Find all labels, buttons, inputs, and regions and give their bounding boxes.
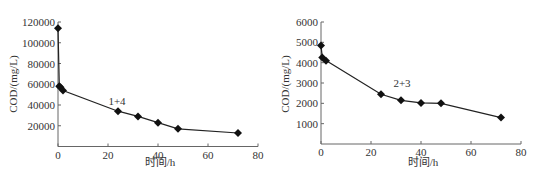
diamond-marker-icon — [234, 129, 242, 137]
chart-1-plus-4: 20000400006000080000100000120000 0204060… — [7, 16, 264, 168]
diamond-marker-icon — [54, 24, 62, 32]
x-axis-title-left: 时间/h — [145, 156, 176, 168]
x-tick-label: 80 — [253, 149, 265, 161]
x-tick-label: 20 — [103, 149, 115, 161]
y-tick-label: 40000 — [28, 99, 56, 111]
diamond-marker-icon — [114, 107, 122, 115]
diamond-marker-icon — [437, 99, 445, 107]
y-ticks-left: 20000400006000080000100000120000 — [22, 16, 61, 132]
y-tick-label: 3000 — [296, 77, 319, 89]
y-tick-label: 60000 — [28, 78, 56, 90]
diamond-marker-icon — [417, 99, 425, 107]
y-tick-label: 1000 — [296, 118, 319, 130]
y-ticks-right: 100020003000400050006000 — [296, 16, 324, 130]
x-tick-label: 60 — [466, 146, 478, 158]
series-annotation-left: 1+4 — [108, 95, 126, 107]
x-tick-label: 20 — [366, 146, 378, 158]
x-tick-label: 60 — [203, 149, 215, 161]
y-tick-label: 4000 — [296, 57, 319, 69]
y-tick-label: 6000 — [296, 16, 319, 28]
diamond-marker-icon — [134, 112, 142, 120]
y-axis-title-left: COD/(mg/L) — [7, 55, 20, 113]
y-axis-title-right: COD/(mg/L) — [279, 55, 292, 113]
diamond-marker-icon — [154, 119, 162, 127]
x-axis-title-right: 时间/h — [408, 156, 439, 168]
x-tick-label: 0 — [318, 146, 324, 158]
y-tick-label: 100000 — [22, 37, 56, 49]
diamond-marker-icon — [497, 114, 505, 122]
diamond-marker-icon — [377, 90, 385, 98]
y-tick-label: 2000 — [296, 97, 319, 109]
chart-canvas: 20000400006000080000100000120000 0204060… — [0, 0, 538, 181]
diamond-marker-icon — [397, 96, 405, 104]
x-tick-label: 80 — [516, 146, 528, 158]
series-annotation-right: 2+3 — [393, 77, 411, 89]
y-tick-label: 20000 — [28, 120, 56, 132]
y-tick-label: 5000 — [296, 36, 319, 48]
y-tick-label: 80000 — [28, 58, 56, 70]
x-tick-label: 0 — [55, 149, 61, 161]
y-tick-label: 120000 — [22, 16, 56, 28]
diamond-marker-icon — [174, 125, 182, 133]
data-line-left — [58, 28, 238, 133]
chart-2-plus-3: 100020003000400050006000 020406080 时间/h … — [279, 16, 527, 168]
data-line-right — [321, 45, 501, 117]
data-markers-right — [317, 41, 505, 121]
